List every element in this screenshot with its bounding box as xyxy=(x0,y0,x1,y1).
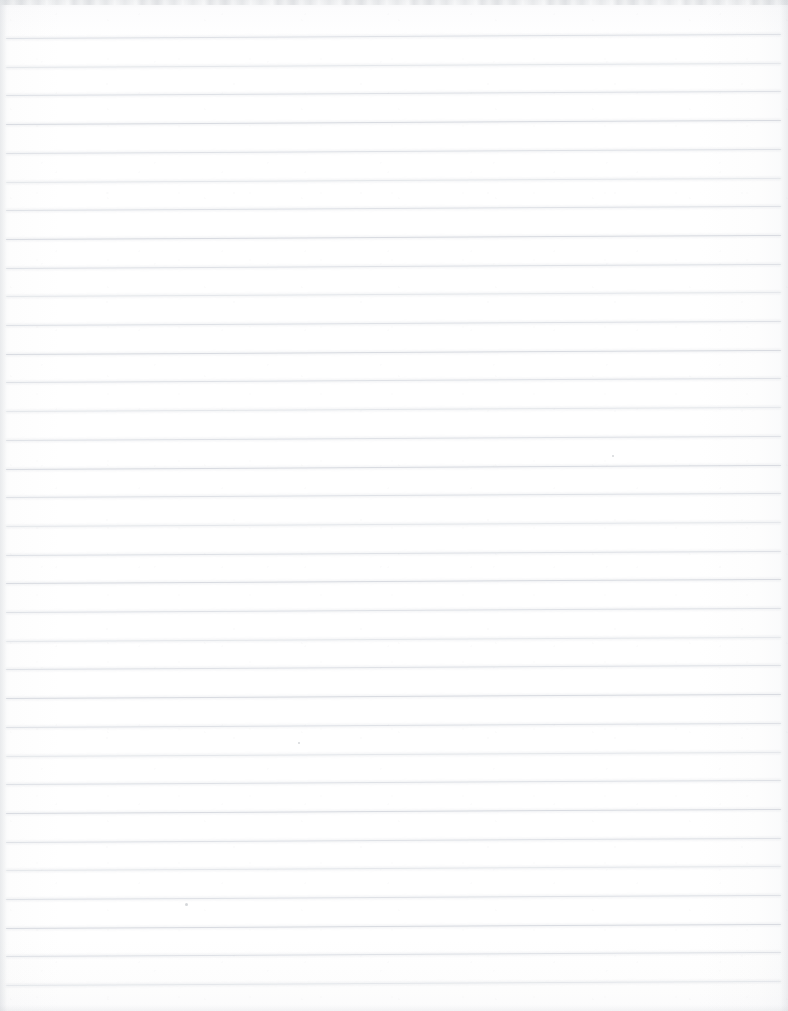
ruled-line xyxy=(6,63,781,68)
ruled-line xyxy=(6,694,781,699)
scanned-page xyxy=(0,0,788,1011)
ruled-line xyxy=(6,665,781,670)
ruled-line xyxy=(6,464,781,469)
speck-artifact xyxy=(612,455,614,457)
ruled-line xyxy=(6,292,781,297)
ruled-line xyxy=(6,235,781,240)
ruled-line xyxy=(6,120,781,125)
ruled-line xyxy=(6,91,781,96)
ruled-line xyxy=(6,809,781,814)
ruled-line xyxy=(6,436,781,441)
ruled-line xyxy=(6,751,781,756)
ruled-line xyxy=(6,493,781,498)
ruled-lines-layer xyxy=(0,0,788,1011)
speck-artifact xyxy=(298,742,300,744)
ruled-line xyxy=(6,723,781,728)
ruled-line xyxy=(6,206,781,211)
ruled-line xyxy=(6,838,781,843)
ruled-line xyxy=(6,895,781,900)
ruled-line xyxy=(6,637,781,642)
ruled-line xyxy=(6,149,781,154)
ruled-line xyxy=(6,579,781,584)
ruled-line xyxy=(6,981,781,986)
ruled-line xyxy=(6,952,781,957)
ruled-line xyxy=(6,407,781,412)
ruled-line xyxy=(6,177,781,182)
ruled-line xyxy=(6,924,781,929)
ruled-line xyxy=(6,34,781,39)
ruled-line xyxy=(6,350,781,355)
ruled-line xyxy=(6,522,781,527)
ruled-line xyxy=(6,608,781,613)
pencil-dot-artifact xyxy=(185,903,188,906)
ruled-line xyxy=(6,264,781,269)
ruled-line xyxy=(6,321,781,326)
ruled-line xyxy=(6,866,781,871)
ruled-line xyxy=(6,551,781,556)
ruled-line xyxy=(6,780,781,785)
ruled-line xyxy=(6,378,781,383)
